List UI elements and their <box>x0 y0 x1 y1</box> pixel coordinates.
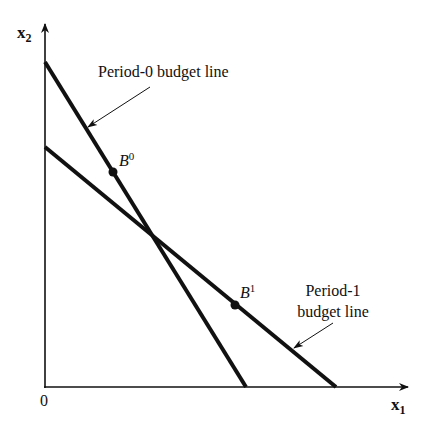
y-axis-label: x2 <box>17 23 32 45</box>
period-1-budget-line <box>45 147 336 387</box>
period-1-leader-arrow <box>294 323 333 348</box>
budget-line-diagram: x2 x1 0 Period-0 budget line Period-1 bu… <box>0 0 431 437</box>
period-0-label: Period-0 budget line <box>98 63 229 81</box>
x-axis-label: x1 <box>391 395 406 417</box>
period-0-leader-arrow <box>88 87 150 127</box>
period-1-label-line2: budget line <box>297 303 369 321</box>
b0-label: B0 <box>119 150 135 169</box>
b1-label: B1 <box>240 282 255 301</box>
period-0-budget-line <box>45 62 246 387</box>
point-b1 <box>231 301 240 310</box>
origin-label: 0 <box>40 392 48 409</box>
period-1-label-line1: Period-1 <box>305 282 360 299</box>
point-b0 <box>109 168 118 177</box>
